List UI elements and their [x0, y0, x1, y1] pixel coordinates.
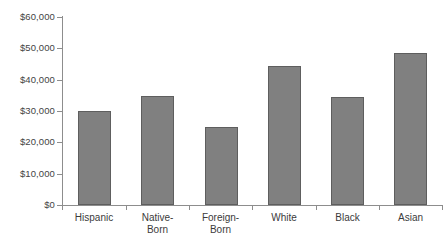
y-tick-2 [57, 142, 63, 143]
x-axis-label-foreign-born: Foreign- Born [189, 212, 252, 236]
x-tick-separator [126, 205, 127, 210]
y-tick-4 [57, 80, 63, 81]
y-tick-6 [57, 17, 63, 18]
bar-foreign-born [205, 127, 238, 205]
y-tick-label-5: $50,000 [20, 43, 55, 53]
y-tick-label-6: $60,000 [20, 12, 55, 22]
y-tick-label-4: $40,000 [20, 75, 55, 85]
x-axis-label-black: Black [316, 212, 379, 224]
bar-asian [394, 53, 427, 205]
y-tick-label-2: $20,000 [20, 137, 55, 147]
bar-black [331, 97, 364, 205]
x-axis-line [57, 205, 443, 206]
x-tick-separator [189, 205, 190, 210]
bar-hispanic [78, 111, 111, 205]
x-tick-separator [442, 205, 443, 210]
y-tick-label-0: $0 [44, 200, 55, 210]
bar-chart: $0 $10,000 $20,000 $30,000 $40,000 $50,0… [0, 0, 447, 244]
y-tick-5 [57, 48, 63, 49]
x-axis-label-white: White [252, 212, 316, 224]
x-axis-label-asian: Asian [379, 212, 442, 224]
bar-native-born [141, 96, 174, 205]
x-axis-label-native-born: Native- Born [126, 212, 189, 236]
x-tick-separator [379, 205, 380, 210]
x-tick-separator [252, 205, 253, 210]
x-tick-separator [316, 205, 317, 210]
y-tick-label-1: $10,000 [20, 169, 55, 179]
y-tick-3 [57, 111, 63, 112]
y-tick-1 [57, 174, 63, 175]
x-tick-separator [62, 205, 63, 210]
y-tick-label-3: $30,000 [20, 106, 55, 116]
bar-white [268, 66, 301, 205]
x-axis-label-hispanic: Hispanic [62, 212, 126, 224]
